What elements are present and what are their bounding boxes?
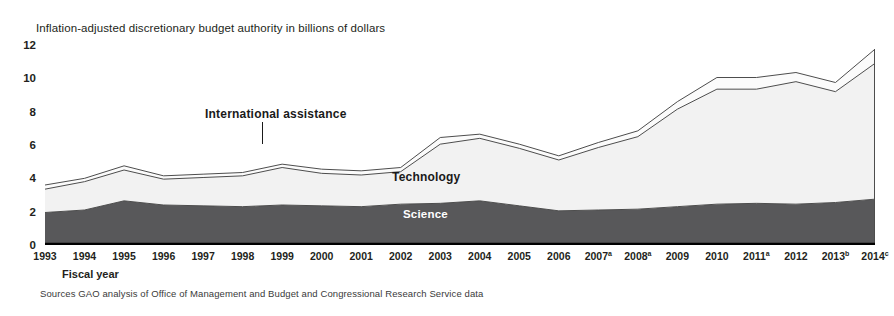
x-axis-tick: 1994 xyxy=(73,250,96,262)
x-axis-tick: 2013b xyxy=(822,250,850,262)
y-axis-tick: 2 xyxy=(30,206,36,218)
x-axis-tick: 1993 xyxy=(33,250,56,262)
x-axis-tick: 1995 xyxy=(112,250,135,262)
x-axis-caption: Fiscal year xyxy=(62,268,119,280)
x-axis-tick: 2000 xyxy=(310,250,333,262)
y-axis-tick: 8 xyxy=(30,106,36,118)
x-axis-tick: 1998 xyxy=(231,250,254,262)
x-axis: 1993199419951996199719981999200020012002… xyxy=(45,250,875,268)
international-assistance-leader-line xyxy=(262,122,263,144)
x-axis-tick: 1999 xyxy=(270,250,293,262)
y-axis-tick: 10 xyxy=(23,72,36,84)
x-axis-tick: 2010 xyxy=(705,250,728,262)
x-axis-tick: 2001 xyxy=(350,250,373,262)
x-axis-tick: 1997 xyxy=(191,250,214,262)
x-axis-tick: 2003 xyxy=(429,250,452,262)
x-axis-tick: 2009 xyxy=(666,250,689,262)
stacked-area-plot xyxy=(45,45,875,245)
y-axis-tick: 4 xyxy=(30,172,36,184)
area-band-science xyxy=(45,199,875,245)
plot-area xyxy=(45,45,875,245)
chart-root: Inflation-adjusted discretionary budget … xyxy=(0,0,894,316)
y-axis-tick: 12 xyxy=(23,39,36,51)
source-note: Sources GAO analysis of Office of Manage… xyxy=(40,288,483,299)
series-label-international-assistance: International assistance xyxy=(205,107,347,121)
x-axis-tick: 2012 xyxy=(784,250,807,262)
x-axis-tick: 2008a xyxy=(624,250,651,262)
y-axis-tick: 6 xyxy=(30,139,36,151)
x-axis-tick: 2006 xyxy=(547,250,570,262)
x-axis-tick: 2002 xyxy=(389,250,412,262)
x-axis-tick: 2007a xyxy=(585,250,612,262)
x-axis-tick: 2005 xyxy=(508,250,531,262)
x-axis-tick: 2011a xyxy=(743,250,770,262)
series-label-science: Science xyxy=(403,208,448,220)
y-axis: 024681012 xyxy=(0,45,42,245)
x-axis-tick: 2014c xyxy=(861,250,888,262)
x-axis-tick: 2004 xyxy=(468,250,491,262)
chart-title: Inflation-adjusted discretionary budget … xyxy=(36,22,385,34)
x-axis-tick: 1996 xyxy=(152,250,175,262)
series-label-technology: Technology xyxy=(392,170,460,184)
